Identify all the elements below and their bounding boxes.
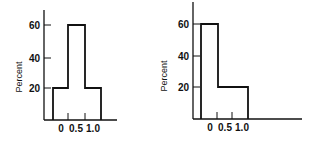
left-y-axis-label: Percent <box>14 61 24 93</box>
left-ytick-label: 20 <box>29 83 41 94</box>
right-histogram: 60 40 20 Percent 0 0.5 1.0 <box>159 2 302 133</box>
histogram-figure: 60 40 20 Percent 0 0.5 1.0 60 40 20 Perc… <box>0 0 321 144</box>
left-xtick-label: 0.5 <box>69 123 83 134</box>
left-histogram: 60 40 20 Percent 0 0.5 1.0 <box>14 10 117 134</box>
right-y-axis-label: Percent <box>159 60 169 92</box>
left-xtick-label: 0 <box>58 123 64 134</box>
left-xtick-label: 1.0 <box>86 123 100 134</box>
right-xtick-label: 0 <box>207 122 213 133</box>
right-xtick-label: 1.0 <box>235 122 249 133</box>
left-histogram-bars <box>53 25 101 120</box>
right-xtick-label: 0.5 <box>218 122 232 133</box>
left-ytick-label: 40 <box>29 53 41 64</box>
right-histogram-bars <box>201 24 248 119</box>
right-ytick-label: 40 <box>178 51 190 62</box>
right-ytick-label: 60 <box>178 19 190 30</box>
left-ytick-label: 60 <box>29 20 41 31</box>
right-ytick-label: 20 <box>178 82 190 93</box>
